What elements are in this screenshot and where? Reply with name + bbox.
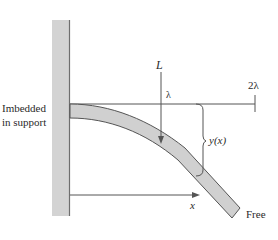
deflection-label: y(x) <box>209 135 226 146</box>
support-label-line1: Imbedded <box>2 103 46 114</box>
two-lambda-label: 2λ <box>248 80 259 91</box>
beam <box>70 104 240 218</box>
support-label-line2: in support <box>2 117 46 128</box>
load-label: L <box>156 59 163 71</box>
x-label: x <box>190 200 195 211</box>
wall-support <box>52 20 70 216</box>
free-end-label: Free <box>246 209 266 220</box>
lambda-label: λ <box>166 90 171 100</box>
x-arrow-head <box>192 192 200 198</box>
